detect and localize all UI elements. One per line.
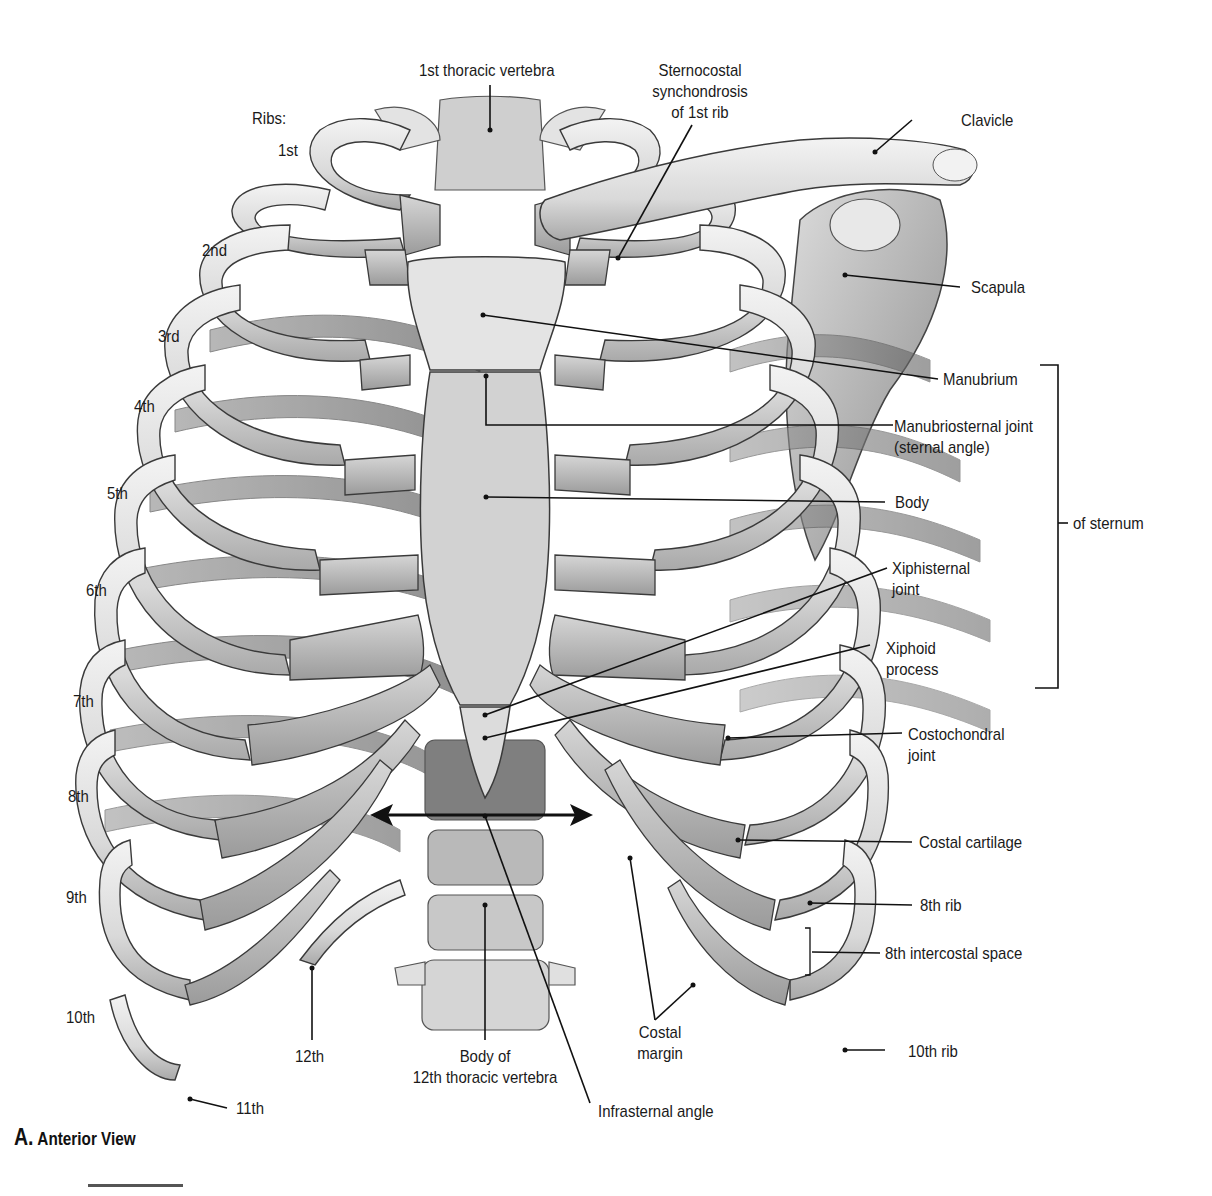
caption-text: Anterior View	[37, 1129, 135, 1149]
costochondral-joint-label: Costochondral joint	[908, 724, 1004, 766]
costochondral-line-1: Costochondral	[908, 724, 1004, 745]
rib-7th-label: 7th	[73, 691, 94, 712]
tenth-rib-label: 10th rib	[908, 1041, 958, 1062]
xiphoid-line-2: process	[886, 659, 938, 680]
caption-letter: A.	[14, 1124, 34, 1150]
rib-11th-label: 11th	[236, 1098, 264, 1119]
rib-cage-figure: Ribs: 1st 2nd 3rd 4th 5th 6th 7th 8th 9t…	[0, 0, 1212, 1196]
ribs-right-side	[76, 119, 410, 1080]
rib-3rd-label: 3rd	[158, 326, 180, 347]
sternocostal-line-1: Sternocostal	[647, 60, 753, 81]
rib-2nd-label: 2nd	[202, 240, 227, 261]
manubrium-label: Manubrium	[943, 369, 1018, 390]
eighth-intercostal-space-label: 8th intercostal space	[885, 943, 1022, 964]
body-12th-line-2: 12th thoracic vertebra	[410, 1067, 560, 1088]
body-of-12th-thoracic-vertebra-label: Body of 12th thoracic vertebra	[410, 1046, 560, 1088]
manubrium-shape	[408, 257, 566, 370]
rib-10th-label: 10th	[66, 1007, 95, 1028]
rib-12th-label: 12th	[295, 1046, 324, 1067]
sternocostal-synchondrosis-label: Sternocostal synchondrosis of 1st rib	[647, 60, 753, 123]
rib-9th-label: 9th	[66, 887, 87, 908]
footer-rule	[88, 1184, 183, 1187]
xiphisternal-joint-label: Xiphisternal joint	[892, 558, 970, 600]
xiphisternal-line-2: joint	[892, 579, 970, 600]
costochondral-line-2: joint	[908, 745, 1004, 766]
rib-8th-label: 8th	[68, 786, 89, 807]
manubriosternal-line-2: (sternal angle)	[894, 437, 1033, 458]
sternocostal-line-2: synchondrosis	[647, 81, 753, 102]
rib-4th-label: 4th	[134, 396, 155, 417]
costal-cartilage-label: Costal cartilage	[919, 832, 1022, 853]
scapula-label: Scapula	[971, 277, 1025, 298]
sternocostal-line-3: of 1st rib	[647, 102, 753, 123]
costal-margin-line-1: Costal	[616, 1022, 704, 1043]
body-12th-line-1: Body of	[410, 1046, 560, 1067]
clavicle-label: Clavicle	[961, 110, 1013, 131]
thoracic-cage-illustration	[0, 0, 1212, 1196]
rib-6th-label: 6th	[86, 580, 107, 601]
of-sternum-label: of sternum	[1073, 513, 1144, 534]
costal-margin-line-2: margin	[616, 1043, 704, 1064]
xiphoid-process-label: Xiphoid process	[886, 638, 938, 680]
eighth-rib-label: 8th rib	[920, 895, 962, 916]
ribs-heading-label: Ribs:	[252, 108, 286, 129]
figure-caption: A. Anterior View	[14, 1124, 136, 1151]
infrasternal-angle-label: Infrasternal angle	[598, 1101, 714, 1122]
rib-1st-label: 1st	[278, 140, 298, 161]
costal-margin-label: Costal margin	[616, 1022, 704, 1064]
sternum-body-label: Body	[895, 492, 929, 513]
sternal-body-shape	[420, 372, 549, 705]
manubriosternal-joint-label: Manubriosternal joint (sternal angle)	[894, 416, 1033, 458]
first-thoracic-vertebra-label: 1st thoracic vertebra	[419, 60, 555, 81]
rib-5th-label: 5th	[107, 483, 128, 504]
xiphoid-line-1: Xiphoid	[886, 638, 938, 659]
xiphisternal-line-1: Xiphisternal	[892, 558, 970, 579]
manubriosternal-line-1: Manubriosternal joint	[894, 416, 1033, 437]
